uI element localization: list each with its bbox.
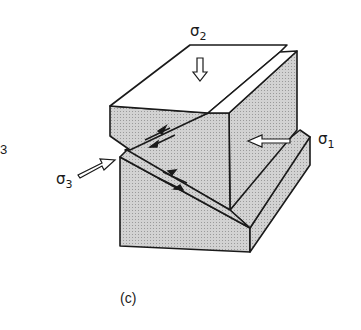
sigma1-label: σ1 [318,132,335,150]
sigma2-label: σ2 [190,24,207,42]
fault-block-diagram [0,0,361,330]
sigma2-symbol: σ [190,22,200,40]
sigma1-subscript: 1 [328,138,335,151]
sigma3-symbol: σ [56,170,66,188]
sigma3-label: σ3 [56,172,73,190]
sigma3-subscript: 3 [66,178,73,191]
edge-fragment-label: 3 [0,142,7,157]
sigma3-arrow-icon [78,159,115,178]
figure-caption: (c) [120,290,136,306]
sigma1-symbol: σ [318,130,328,148]
sigma2-subscript: 2 [200,30,207,43]
